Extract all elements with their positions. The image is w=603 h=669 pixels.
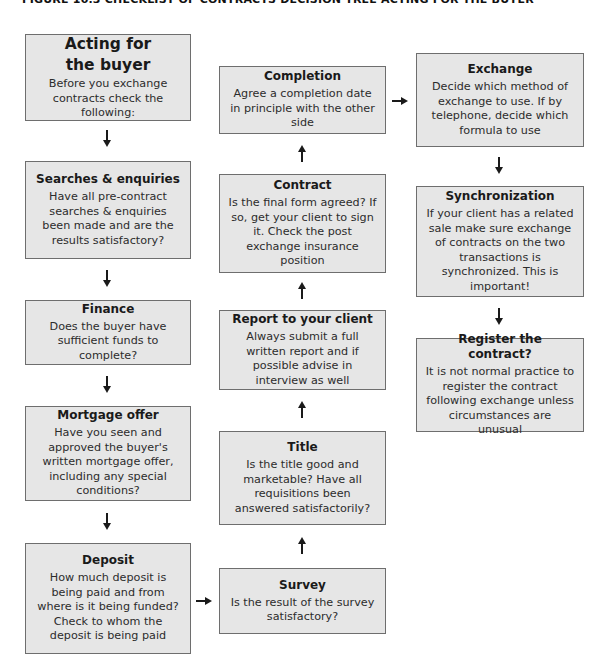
arrow-down-icon xyxy=(494,157,504,175)
box-heading: Mortgage offer xyxy=(57,408,158,423)
box-heading: Survey xyxy=(279,578,326,593)
box-heading: Finance xyxy=(82,302,135,317)
arrow-down-icon xyxy=(494,308,504,326)
box-synchronization: Synchronization If your client has a rel… xyxy=(416,186,584,297)
box-text: Have you seen and approved the buyer's w… xyxy=(34,426,182,499)
box-text: Have all pre-contract searches & enquiri… xyxy=(34,190,182,248)
box-heading: Title xyxy=(287,440,317,455)
box-heading: Synchronization xyxy=(445,189,554,204)
box-text: Is the title good and marketable? Have a… xyxy=(228,458,377,516)
box-acting-for-buyer: Acting for the buyer Before you exchange… xyxy=(25,34,191,121)
box-text: Does the buyer have sufficient funds to … xyxy=(34,320,182,364)
arrow-down-icon xyxy=(102,513,112,531)
box-text: Agree a completion date in principle wit… xyxy=(228,87,377,131)
box-contract: Contract Is the final form agreed? If so… xyxy=(219,174,386,273)
box-deposit: Deposit How much deposit is being paid a… xyxy=(25,543,191,654)
box-heading: Deposit xyxy=(82,553,134,568)
box-finance: Finance Does the buyer have sufficient f… xyxy=(25,300,191,365)
box-heading: Acting for the buyer xyxy=(34,34,182,76)
box-register-contract: Register the contract? It is not normal … xyxy=(416,338,584,432)
arrow-down-icon xyxy=(102,376,112,394)
arrow-up-icon xyxy=(297,282,307,300)
box-text: Before you exchange contracts check the … xyxy=(34,77,182,121)
box-survey: Survey Is the result of the survey satis… xyxy=(219,568,386,634)
box-text: Decide which method of exchange to use. … xyxy=(425,80,575,138)
box-text: Always submit a full written report and … xyxy=(228,330,377,388)
arrow-up-icon xyxy=(297,537,307,555)
arrow-right-icon xyxy=(392,96,409,106)
box-text: Is the final form agreed? If so, get you… xyxy=(228,196,377,269)
box-completion: Completion Agree a completion date in pr… xyxy=(219,66,386,134)
arrow-down-icon xyxy=(102,130,112,148)
box-heading: Completion xyxy=(264,69,341,84)
box-text: It is not normal practice to register th… xyxy=(425,365,575,438)
arrow-up-icon xyxy=(297,401,307,419)
box-searches-enquiries: Searches & enquiries Have all pre-contra… xyxy=(25,161,191,259)
box-title: Title Is the title good and marketable? … xyxy=(219,431,386,525)
box-mortgage-offer: Mortgage offer Have you seen and approve… xyxy=(25,406,191,501)
box-text: If your client has a related sale make s… xyxy=(425,207,575,294)
box-exchange: Exchange Decide which method of exchange… xyxy=(416,53,584,147)
box-report-to-client: Report to your client Always submit a fu… xyxy=(219,310,386,390)
box-heading: Searches & enquiries xyxy=(36,172,180,187)
box-text: How much deposit is being paid and from … xyxy=(34,571,182,644)
box-heading: Contract xyxy=(273,178,331,193)
box-text: Is the result of the survey satisfactory… xyxy=(228,596,377,625)
box-heading: Report to your client xyxy=(232,312,373,327)
box-heading: Register the contract? xyxy=(425,332,575,362)
arrow-down-icon xyxy=(102,270,112,288)
arrow-up-icon xyxy=(297,145,307,163)
arrow-right-icon xyxy=(196,596,213,606)
figure-title: FIGURE 10.3 CHECKLIST OF CONTRACTS DECIS… xyxy=(22,0,534,6)
box-heading: Exchange xyxy=(468,62,533,77)
